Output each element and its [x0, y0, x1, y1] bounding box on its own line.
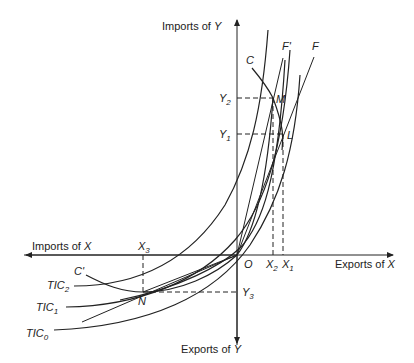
tick-X3: X3	[137, 240, 150, 255]
tick-X2: X2	[265, 258, 278, 273]
curve-label-C: C	[246, 54, 254, 66]
tick-Y2: Y2	[219, 92, 231, 107]
point-N: N	[138, 295, 146, 307]
ray-terms	[143, 255, 237, 292]
ray-F	[237, 57, 314, 255]
x-right-axis-label: Exports of X	[335, 258, 396, 270]
tick-X1: X1	[281, 258, 294, 273]
y-bottom-axis-label: Exports of Y	[181, 343, 242, 355]
tic1-curve	[66, 50, 290, 307]
curve-label-F-prime: F'	[282, 40, 292, 52]
tic2-label: TIC2	[47, 279, 70, 294]
point-L: L	[287, 129, 293, 141]
curve-label-C-prime: C'	[74, 265, 85, 277]
ray-F-extension	[82, 255, 237, 322]
point-M: M	[276, 93, 286, 105]
ray-F-prime	[237, 58, 283, 255]
x-left-axis-label: Imports of X	[32, 240, 92, 252]
y-top-axis-label: Imports of Y	[162, 20, 222, 32]
tick-Y1: Y1	[219, 128, 231, 143]
tic1-label: TIC1	[36, 301, 58, 316]
origin-label: O	[244, 258, 253, 270]
tic0-label: TIC0	[26, 327, 49, 342]
tick-Y3: Y3	[242, 286, 254, 301]
curve-label-F: F	[312, 40, 320, 52]
trade-indifference-diagram: Imports of Y Exports of Y Imports of X E…	[0, 0, 414, 363]
